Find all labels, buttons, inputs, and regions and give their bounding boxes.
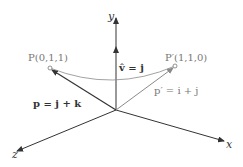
vector-p-prime-label: p′ = i + j [154,86,198,96]
vector-p-label: p = j + k [33,99,81,109]
x-axis [116,110,224,141]
z-axis-label: z [12,150,18,160]
diagram-canvas [0,0,243,167]
point-p-marker [48,66,52,70]
rotation-arc [50,66,175,80]
v-hat-label: v̂ = j [119,63,144,73]
point-p-prime-label: P′(1,1,0) [165,53,207,63]
vector-rotation-diagram: y x z P(0,1,1) P′(1,1,0) v̂ = j p = j + … [0,0,243,167]
z-axis [17,110,116,151]
point-p-prime-marker [173,64,177,68]
x-axis-label: x [226,140,232,150]
y-axis-label: y [108,12,114,22]
point-p-label: P(0,1,1) [28,53,68,63]
v-hat-arrowhead-icon [113,46,119,53]
